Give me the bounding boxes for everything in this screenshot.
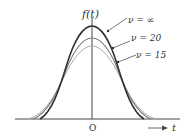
leader-line-nu-20: [113, 41, 130, 48]
arrow-head-icon: [162, 126, 168, 131]
leader-dot-nu-15: [117, 61, 119, 63]
leader-dot-nu-infinity: [107, 30, 109, 32]
leader-line-nu-infinity: [108, 18, 127, 31]
label-nu-15: ν = 15: [136, 50, 166, 60]
origin-label: O: [89, 123, 96, 133]
leader-dot-nu-20: [112, 47, 114, 49]
t-distribution-diagram: f(t) ν = ∞ ν = 20 ν = 15 O t: [0, 0, 191, 139]
x-axis-label: t: [172, 122, 177, 133]
label-nu-infinity: ν = ∞: [128, 15, 154, 25]
leader-line-nu-15: [118, 55, 136, 62]
label-nu-20: ν = 20: [131, 33, 161, 43]
y-axis-label: f(t): [81, 8, 99, 21]
